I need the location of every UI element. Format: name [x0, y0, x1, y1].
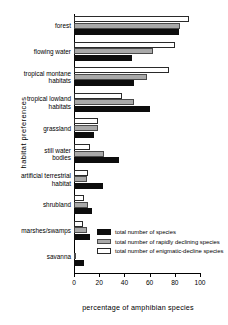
bar [74, 260, 84, 266]
bar [74, 176, 87, 182]
category-label: still water bodies [5, 147, 71, 162]
x-axis-tick-label: 100 [188, 279, 212, 286]
bar [74, 151, 104, 157]
bar [74, 48, 153, 54]
legend-swatch-icon [97, 239, 111, 245]
bar-group: forest [74, 16, 200, 36]
x-axis-line [74, 273, 201, 274]
x-axis-tick-label: 60 [138, 279, 162, 286]
bar-group: shrubland [74, 195, 200, 215]
x-axis-title: percentage of amphibian species [48, 303, 228, 312]
legend-item: total number of rapidly declining specie… [97, 238, 223, 246]
category-label: artificial terrestrial habitat [5, 172, 71, 187]
legend-item: total number of enigmatic-decline specie… [97, 247, 223, 255]
legend-swatch-icon [97, 248, 111, 254]
legend-label: total number of species [115, 229, 176, 235]
x-axis-tick [150, 273, 151, 277]
x-axis-tick-label: 80 [163, 279, 187, 286]
bar-group: tropical lowland habitats [74, 93, 200, 113]
category-label: marshes/swamps [5, 227, 71, 234]
x-axis-tick-label: 40 [112, 279, 136, 286]
bar-group: tropical montane habitats [74, 67, 200, 87]
bar [74, 93, 122, 99]
bar [74, 99, 134, 105]
bar [74, 183, 103, 189]
x-axis-tick [74, 273, 75, 277]
bar [74, 125, 98, 131]
bar [74, 42, 175, 48]
bar [74, 23, 180, 29]
bar [74, 55, 132, 61]
x-axis-tick [124, 273, 125, 277]
bar [74, 74, 147, 80]
x-axis-tick-label: 20 [87, 279, 111, 286]
bar [74, 253, 76, 259]
bar-group: grassland [74, 118, 200, 138]
bar-group: still water bodies [74, 144, 200, 164]
bar [74, 16, 189, 22]
bar [74, 227, 87, 233]
bar-chart: habitat preferences forestflowing watert… [0, 0, 228, 325]
bar [74, 106, 150, 112]
bar [74, 80, 134, 86]
bar [74, 29, 179, 35]
x-axis-tick [200, 273, 201, 277]
category-label: forest [5, 22, 71, 29]
bar [74, 144, 90, 150]
bar-group: artificial terrestrial habitat [74, 170, 200, 190]
category-label: flowing water [5, 48, 71, 55]
bar [74, 195, 84, 201]
x-axis-tick [175, 273, 176, 277]
bar [74, 170, 88, 176]
category-label: grassland [5, 125, 71, 132]
bar [74, 118, 98, 124]
bar [74, 208, 92, 214]
category-label: savanna [5, 253, 71, 260]
legend-item: total number of species [97, 228, 223, 236]
category-label: tropical lowland habitats [5, 95, 71, 110]
category-label: tropical montane habitats [5, 70, 71, 85]
bar [74, 132, 94, 138]
legend-label: total number of rapidly declining specie… [115, 239, 220, 245]
bar-group: flowing water [74, 42, 200, 62]
bar [74, 221, 83, 227]
chart-legend: total number of speciestotal number of r… [97, 228, 223, 257]
bar [74, 202, 88, 208]
legend-swatch-icon [97, 229, 111, 235]
legend-label: total number of enigmatic-decline specie… [115, 248, 223, 254]
category-label: shrubland [5, 201, 71, 208]
x-axis-tick [99, 273, 100, 277]
bar [74, 157, 119, 163]
bar [74, 67, 169, 73]
bar [74, 234, 90, 240]
x-axis-tick-label: 0 [62, 279, 86, 286]
